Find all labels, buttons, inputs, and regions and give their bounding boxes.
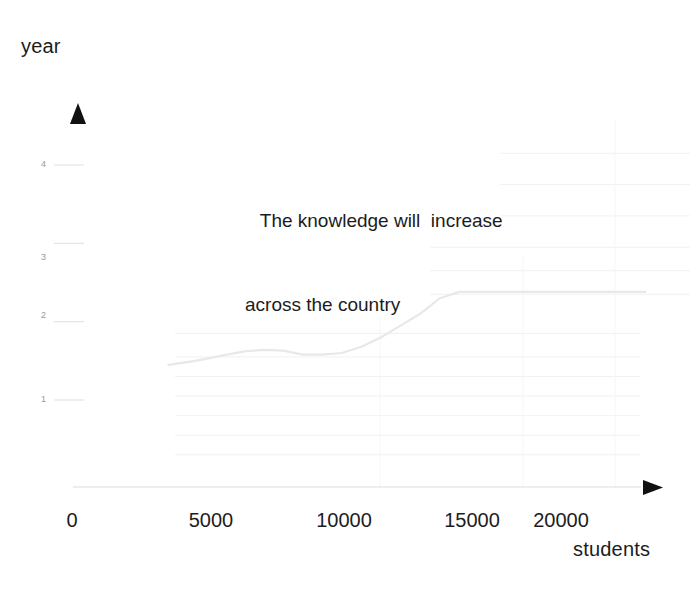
- right-arrow-icon: [643, 480, 663, 495]
- annotation-line-1: The knowledge will increase: [260, 210, 503, 231]
- up-arrow-icon: [70, 103, 86, 124]
- y-tick-label-1: 1: [30, 394, 46, 404]
- y-axis-title: year: [21, 35, 61, 58]
- annotation-line-2: across the country: [239, 291, 569, 319]
- x-tick-label-10000: 10000: [316, 509, 372, 532]
- y-tick-label-3: 3: [30, 252, 46, 262]
- x-tick-label-15000: 15000: [444, 509, 500, 532]
- x-tick-label-20000: 20000: [533, 509, 589, 532]
- y-tick-marks: [54, 165, 84, 400]
- x-tick-label-5000: 5000: [189, 509, 234, 532]
- chart-container: year students The knowledge will increas…: [0, 0, 698, 611]
- chart-annotation: The knowledge will increase across the c…: [239, 179, 569, 375]
- x-tick-label-0: 0: [66, 509, 77, 532]
- x-axis-title: students: [573, 538, 650, 561]
- y-tick-label-2: 2: [30, 310, 46, 320]
- y-tick-label-4: 4: [30, 159, 46, 169]
